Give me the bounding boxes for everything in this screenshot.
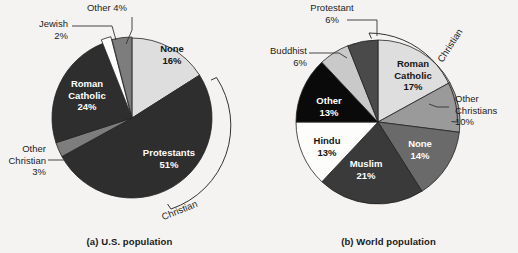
slice-label-protestants-us-name: Protestants — [126, 147, 212, 159]
callout-other-christian-us: Other Christian 3% — [0, 143, 46, 178]
bracket-tick-start — [369, 33, 372, 39]
slice-label-hindu-world-name: Hindu — [299, 135, 355, 147]
chart-panel-world-population: Roman Catholic 17%Other Christians 10%No… — [259, 0, 518, 253]
callout-other-christians-world-line1: Other — [455, 93, 517, 105]
callout-other-christian-us-line1: Other — [0, 143, 46, 155]
slice-label-protestants-us: Protestants 51% — [126, 147, 212, 170]
slice-label-roman-catholic-world-pct: 17% — [377, 81, 449, 93]
slice-label-none-us-pct: 16% — [144, 55, 200, 67]
slice-label-roman-catholic-world: Roman Catholic 17% — [377, 58, 449, 93]
callout-jewish-us-line1: Jewish — [0, 18, 68, 30]
slice-label-muslim-world-name: Muslim — [335, 158, 397, 170]
callout-buddhist-world-line1: Buddhist — [259, 45, 307, 57]
callout-jewish-us-line2: 2% — [0, 30, 68, 42]
slice-label-hindu-world-pct: 13% — [299, 147, 355, 159]
callout-protestant-world-line2: 6% — [287, 14, 377, 26]
bracket-tick-top — [211, 78, 217, 81]
slice-label-none-us-name: None — [144, 43, 200, 55]
slice-label-roman-catholic-us-line2: Catholic — [52, 90, 122, 102]
caption-us-population: (a) U.S. population — [0, 236, 259, 247]
slice-label-muslim-world-pct: 21% — [335, 170, 397, 182]
slice-label-none-world: None 14% — [393, 138, 447, 161]
slice-label-none-world-pct: 14% — [393, 150, 447, 162]
slice-label-other-world-pct: 13% — [301, 107, 357, 119]
slice-label-muslim-world: Muslim 21% — [335, 158, 397, 181]
callout-other-us: Other 4% — [62, 2, 152, 14]
callout-jewish-us: Jewish 2% — [0, 18, 68, 41]
caption-world-population: (b) World population — [259, 236, 518, 247]
slice-label-roman-catholic-world-line2: Catholic — [377, 70, 449, 82]
chart-panel-us-population: None 16%Protestants 51%Other Christian 3… — [0, 0, 259, 253]
figure-religious-affiliation: None 16%Protestants 51%Other Christian 3… — [0, 0, 518, 253]
callout-other-christians-world-line3: 10% — [455, 116, 517, 128]
slice-label-other-world-name: Other — [301, 95, 357, 107]
slice-label-roman-catholic-us: Roman Catholic 24% — [52, 78, 122, 113]
callout-other-christians-world: Other Christians 10% — [455, 93, 517, 128]
callout-other-us-line1: Other 4% — [62, 2, 152, 14]
callout-other-christian-us-line2: Christian — [0, 155, 46, 167]
slice-label-none-us: None 16% — [144, 43, 200, 66]
slice-label-roman-catholic-us-pct: 24% — [52, 101, 122, 113]
slice-label-none-world-name: None — [393, 138, 447, 150]
callout-other-christians-world-line2: Christians — [455, 105, 517, 117]
slice-label-hindu-world: Hindu 13% — [299, 135, 355, 158]
slice-label-roman-catholic-us-line1: Roman — [52, 78, 122, 90]
slice-label-other-world: Other 13% — [301, 95, 357, 118]
slice-label-protestants-us-pct: 51% — [126, 159, 212, 171]
callout-buddhist-world-line2: 6% — [259, 57, 307, 69]
callout-protestant-world-line1: Protestant — [287, 2, 377, 14]
callout-protestant-world: Protestant 6% — [287, 2, 377, 25]
callout-buddhist-world: Buddhist 6% — [259, 45, 307, 68]
callout-other-christian-us-line3: 3% — [0, 166, 46, 178]
